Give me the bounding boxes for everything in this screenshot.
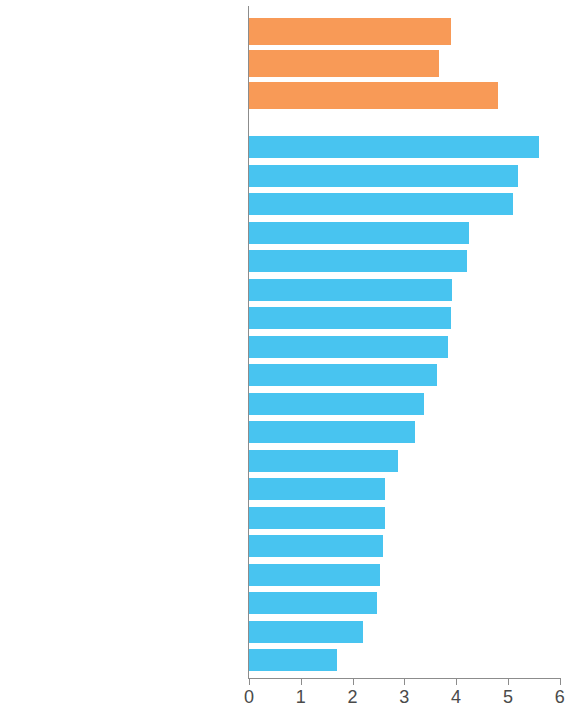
bar bbox=[249, 307, 451, 329]
bar bbox=[249, 421, 415, 443]
x-axis-tick-label: 4 bbox=[436, 687, 476, 708]
bar bbox=[249, 649, 337, 671]
bar bbox=[249, 82, 498, 109]
x-axis-tick-mark bbox=[249, 679, 250, 685]
x-axis-tick-mark bbox=[353, 679, 354, 685]
x-axis-tick-label: 0 bbox=[229, 687, 269, 708]
bar bbox=[249, 450, 398, 472]
bar bbox=[249, 336, 448, 358]
x-axis-tick-label: 1 bbox=[281, 687, 321, 708]
x-axis-tick-label: 6 bbox=[540, 687, 566, 708]
bar bbox=[249, 592, 377, 614]
x-axis-tick-label: 2 bbox=[333, 687, 373, 708]
bar bbox=[249, 507, 385, 529]
bar bbox=[249, 564, 380, 586]
bar bbox=[249, 364, 437, 386]
x-axis-tick-mark bbox=[456, 679, 457, 685]
plot-area: 0123456 ADB DMCsOther Developing Countri… bbox=[0, 0, 566, 713]
bar bbox=[249, 393, 424, 415]
bar bbox=[249, 535, 383, 557]
bar bbox=[249, 478, 385, 500]
x-axis-tick-label: 5 bbox=[488, 687, 528, 708]
bar bbox=[249, 50, 439, 77]
x-axis-tick-mark bbox=[301, 679, 302, 685]
bar bbox=[249, 193, 513, 215]
bar-chart: 0123456 ADB DMCsOther Developing Countri… bbox=[0, 0, 566, 713]
bar bbox=[249, 18, 451, 45]
bar bbox=[249, 165, 518, 187]
x-axis-tick-label: 3 bbox=[384, 687, 424, 708]
bar bbox=[249, 222, 469, 244]
bar bbox=[249, 136, 539, 158]
x-axis-tick-mark bbox=[404, 679, 405, 685]
bar bbox=[249, 279, 452, 301]
bar bbox=[249, 621, 363, 643]
x-axis-tick-mark bbox=[560, 679, 561, 685]
x-axis-tick-mark bbox=[508, 679, 509, 685]
bar bbox=[249, 250, 467, 272]
